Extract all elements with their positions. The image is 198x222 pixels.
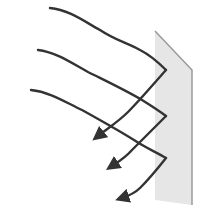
- reflecting-surface: [155, 31, 192, 205]
- surface-shading: [155, 31, 192, 205]
- incident-ray: [31, 90, 166, 158]
- ray-3: [31, 90, 166, 198]
- reflection-diagram: [0, 0, 198, 222]
- incident-ray: [38, 50, 166, 116]
- light-rays: [31, 8, 166, 198]
- ray-1: [50, 8, 166, 136]
